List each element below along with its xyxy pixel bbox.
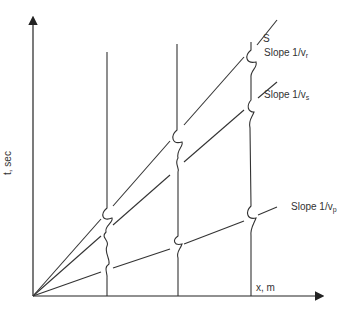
slope-line-s <box>33 236 101 296</box>
x-axis-label: x, m <box>256 282 275 293</box>
y-axis-label: t, sec <box>2 151 13 175</box>
receiver-trace-3 <box>247 42 256 296</box>
slope-label-p: Slope 1/vp <box>291 201 337 213</box>
receiver-trace-1 <box>103 52 112 296</box>
source-label: S <box>263 33 270 44</box>
receiver-trace-2 <box>173 44 182 296</box>
slope-label-r: Slope 1/vr <box>264 47 308 59</box>
slope-label-s: Slope 1/vs <box>264 89 309 101</box>
